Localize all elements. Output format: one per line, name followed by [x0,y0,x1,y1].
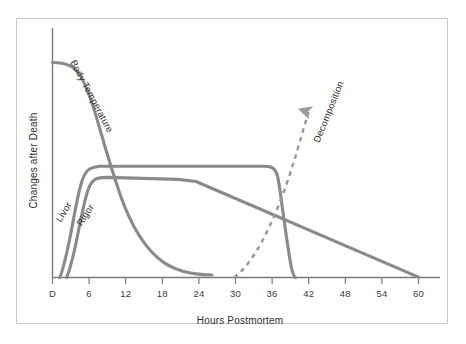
x-axis-title: Hours Postmortem [150,315,330,326]
x-tick-label: 12 [113,288,139,299]
curve-decomposition [234,112,309,278]
x-tick-label: 18 [149,288,175,299]
x-axis-ticks [53,278,419,285]
x-tick-label: 36 [259,288,285,299]
y-axis-title: Changes after Death [28,81,39,241]
x-tick-label: 24 [186,288,212,299]
x-tick-label: 6 [76,288,102,299]
x-tick-label: 48 [332,288,358,299]
curve-livor [60,166,296,277]
x-tick-label: 60 [406,288,432,299]
x-tick-label: D [40,288,66,299]
postmortem-changes-chart: D 6 12 18 24 30 36 42 48 54 60 Hours Pos… [0,0,466,344]
x-tick-label: 42 [296,288,322,299]
x-tick-label: 30 [223,288,249,299]
x-tick-label: 54 [369,288,395,299]
